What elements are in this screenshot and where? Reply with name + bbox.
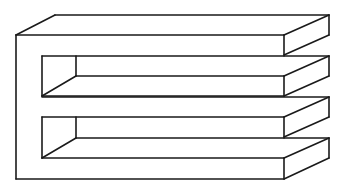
slot-1: [42, 56, 284, 96]
prong-1: [284, 15, 329, 55]
impossible-figure: [0, 0, 344, 191]
prong-4: [284, 138, 329, 179]
prong-2: [284, 56, 329, 96]
slot-2: [42, 117, 284, 158]
